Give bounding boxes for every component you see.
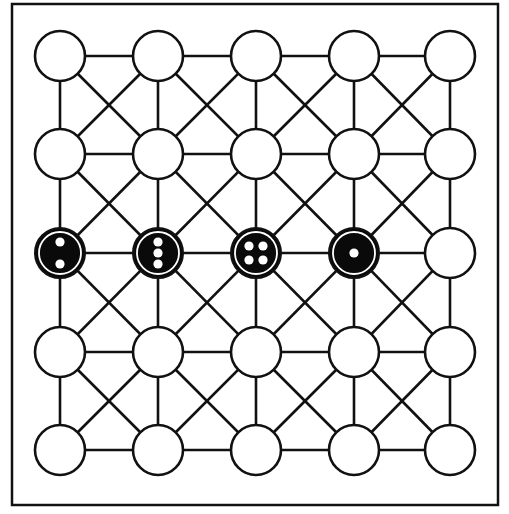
pip-dot-icon	[55, 259, 64, 268]
empty-node[interactable]	[329, 327, 379, 377]
empty-node-circle[interactable]	[425, 31, 475, 81]
empty-node[interactable]	[425, 228, 475, 278]
pip-dot-icon	[153, 248, 162, 257]
black-piece-4-pips[interactable]	[231, 228, 281, 278]
empty-node-circle[interactable]	[35, 129, 85, 179]
pip-dot-icon	[55, 237, 64, 246]
empty-node[interactable]	[35, 327, 85, 377]
empty-node[interactable]	[35, 31, 85, 81]
pip-dot-icon	[258, 241, 267, 250]
empty-node-circle[interactable]	[425, 228, 475, 278]
empty-node[interactable]	[133, 327, 183, 377]
empty-node-circle[interactable]	[231, 129, 281, 179]
empty-node-circle[interactable]	[133, 31, 183, 81]
empty-node[interactable]	[425, 327, 475, 377]
empty-node-circle[interactable]	[35, 31, 85, 81]
empty-node[interactable]	[425, 129, 475, 179]
piece-outer[interactable]	[35, 228, 85, 278]
empty-node-circle[interactable]	[329, 327, 379, 377]
empty-node[interactable]	[329, 129, 379, 179]
empty-node-circle[interactable]	[231, 327, 281, 377]
empty-node-circle[interactable]	[425, 129, 475, 179]
empty-node-circle[interactable]	[231, 31, 281, 81]
empty-node-circle[interactable]	[425, 425, 475, 475]
empty-node[interactable]	[133, 425, 183, 475]
empty-node-circle[interactable]	[329, 31, 379, 81]
empty-node[interactable]	[329, 31, 379, 81]
empty-node[interactable]	[329, 425, 379, 475]
empty-node-circle[interactable]	[329, 129, 379, 179]
empty-node[interactable]	[231, 327, 281, 377]
empty-node[interactable]	[231, 129, 281, 179]
black-piece-2-pips[interactable]	[35, 228, 85, 278]
empty-node[interactable]	[35, 129, 85, 179]
empty-node[interactable]	[425, 31, 475, 81]
empty-node[interactable]	[133, 129, 183, 179]
pip-dot-icon	[258, 255, 267, 264]
pip-dot-icon	[349, 248, 358, 257]
empty-node[interactable]	[231, 31, 281, 81]
empty-node-circle[interactable]	[35, 425, 85, 475]
empty-node-circle[interactable]	[425, 327, 475, 377]
game-board	[0, 0, 509, 514]
pip-dot-icon	[244, 241, 253, 250]
empty-node[interactable]	[231, 425, 281, 475]
empty-node-circle[interactable]	[133, 425, 183, 475]
empty-node-circle[interactable]	[133, 129, 183, 179]
empty-node-circle[interactable]	[231, 425, 281, 475]
pip-dot-icon	[153, 259, 162, 268]
pip-dot-icon	[153, 237, 162, 246]
black-piece-3-pips[interactable]	[133, 228, 183, 278]
pip-dot-icon	[244, 255, 253, 264]
piece-outer[interactable]	[231, 228, 281, 278]
empty-node[interactable]	[133, 31, 183, 81]
black-piece-1-pips[interactable]	[329, 228, 379, 278]
empty-node-circle[interactable]	[329, 425, 379, 475]
empty-node-circle[interactable]	[35, 327, 85, 377]
empty-node[interactable]	[425, 425, 475, 475]
empty-node-circle[interactable]	[133, 327, 183, 377]
empty-node[interactable]	[35, 425, 85, 475]
